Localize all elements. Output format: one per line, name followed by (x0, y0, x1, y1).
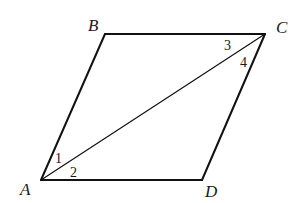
vertex-label-b: B (88, 16, 99, 35)
vertex-label-a: A (19, 180, 31, 199)
angle-label-2: 2 (70, 165, 77, 180)
vertex-label-c: C (276, 18, 288, 37)
parallelogram-diagram: A B C D 1 2 3 4 (0, 0, 302, 203)
angle-label-1: 1 (55, 151, 62, 166)
angle-label-3: 3 (224, 38, 231, 53)
angle-label-4: 4 (240, 55, 247, 70)
diagonal-AC (41, 34, 265, 180)
side-CD (202, 34, 265, 180)
side-AB (41, 34, 105, 180)
vertex-label-d: D (204, 182, 218, 201)
